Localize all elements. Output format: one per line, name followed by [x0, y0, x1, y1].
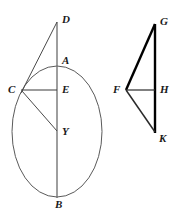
left-figure-group — [12, 22, 102, 198]
point-label-H: H — [160, 84, 169, 95]
geometry-canvas — [0, 0, 180, 218]
point-label-D: D — [62, 14, 70, 25]
point-label-E: E — [62, 84, 69, 95]
point-label-A: A — [62, 55, 69, 66]
segment-DC — [21, 22, 57, 93]
segment-CY — [22, 91, 57, 131]
geometry-figure: D A C E Y B G F H K — [0, 0, 180, 218]
point-label-F: F — [113, 84, 120, 95]
point-label-K: K — [159, 133, 166, 144]
point-label-B: B — [55, 199, 62, 210]
segment-FG — [126, 24, 155, 90]
point-label-Y: Y — [62, 126, 69, 137]
right-figure-group — [126, 24, 155, 133]
point-label-G: G — [160, 16, 168, 27]
segment-FK — [126, 90, 155, 132]
point-label-C: C — [8, 84, 15, 95]
